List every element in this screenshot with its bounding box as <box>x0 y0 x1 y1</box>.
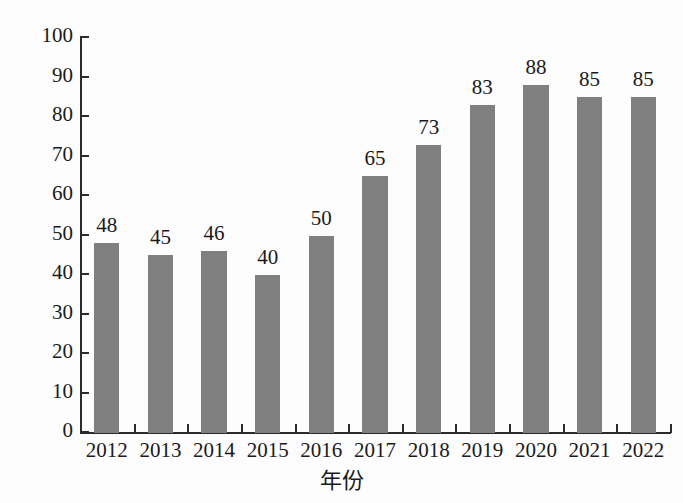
x-axis-category-label: 2014 <box>193 440 235 461</box>
y-axis-tick: 50 <box>80 234 89 236</box>
y-axis-tick-label: 80 <box>52 104 73 125</box>
y-axis-tick-label: 90 <box>52 65 73 86</box>
bar: 45 <box>148 255 173 433</box>
x-axis-category-label: 2018 <box>408 440 450 461</box>
x-axis-tick <box>509 424 511 433</box>
y-axis-tick-label: 20 <box>52 341 73 362</box>
bar: 85 <box>577 97 602 433</box>
x-axis-category-label: 2017 <box>354 440 396 461</box>
x-axis-category-label: 2016 <box>300 440 342 461</box>
bar: 65 <box>362 176 387 433</box>
bar-value-label: 85 <box>579 69 600 90</box>
y-axis-tick: 20 <box>80 352 89 354</box>
bar-value-label: 48 <box>96 215 117 236</box>
y-axis-tick-label: 40 <box>52 262 73 283</box>
bar-value-label: 73 <box>418 117 439 138</box>
x-axis-category-label: 2021 <box>569 440 611 461</box>
plot-area: 0102030405060708090100 48454640506573838… <box>80 38 670 433</box>
x-axis-tick <box>80 424 82 433</box>
bar-value-label: 50 <box>311 208 332 229</box>
y-axis-tick: 10 <box>80 392 89 394</box>
y-axis-tick-label: 0 <box>63 420 74 441</box>
y-axis-tick-label: 60 <box>52 183 73 204</box>
x-axis-category-label: 2022 <box>622 440 664 461</box>
bar: 50 <box>309 236 334 434</box>
bar: 85 <box>631 97 656 433</box>
y-axis-tick-label: 30 <box>52 302 73 323</box>
x-axis-tick <box>455 424 457 433</box>
bar-chart: 0102030405060708090100 48454640506573838… <box>0 0 683 503</box>
y-axis-tick: 100 <box>80 36 89 38</box>
bar-value-label: 45 <box>150 227 171 248</box>
y-axis-tick-label: 100 <box>42 25 74 46</box>
x-axis-title: 年份 <box>0 470 683 492</box>
x-axis-tick <box>670 424 672 433</box>
y-axis-tick-label: 70 <box>52 144 73 165</box>
y-axis-tick: 60 <box>80 194 89 196</box>
bar-value-label: 85 <box>633 69 654 90</box>
x-axis-category-label: 2013 <box>139 440 181 461</box>
bar-value-label: 40 <box>257 247 278 268</box>
x-axis-tick <box>187 424 189 433</box>
y-axis-tick: 90 <box>80 76 89 78</box>
x-axis-tick <box>616 424 618 433</box>
x-axis-tick <box>241 424 243 433</box>
x-axis-category-label: 2019 <box>461 440 503 461</box>
x-axis-tick <box>295 424 297 433</box>
x-axis-tick <box>402 424 404 433</box>
y-axis-tick: 30 <box>80 313 89 315</box>
x-axis-category-label: 2020 <box>515 440 557 461</box>
bar-value-label: 46 <box>204 223 225 244</box>
bar: 46 <box>201 251 226 433</box>
bar: 83 <box>470 105 495 433</box>
bar: 40 <box>255 275 280 433</box>
y-axis-tick-label: 50 <box>52 223 73 244</box>
bar: 48 <box>94 243 119 433</box>
x-axis-category-label: 2012 <box>86 440 128 461</box>
y-axis-tick: 40 <box>80 273 89 275</box>
bar-value-label: 88 <box>525 57 546 78</box>
x-axis-tick <box>563 424 565 433</box>
bar: 73 <box>416 145 441 433</box>
bar-value-label: 65 <box>364 148 385 169</box>
x-axis-category-label: 2015 <box>247 440 289 461</box>
x-axis-tick <box>348 424 350 433</box>
y-axis-tick: 70 <box>80 155 89 157</box>
y-axis-tick-label: 10 <box>52 381 73 402</box>
y-axis-tick: 80 <box>80 115 89 117</box>
x-axis-tick <box>134 424 136 433</box>
bar: 88 <box>523 85 548 433</box>
bar-value-label: 83 <box>472 77 493 98</box>
